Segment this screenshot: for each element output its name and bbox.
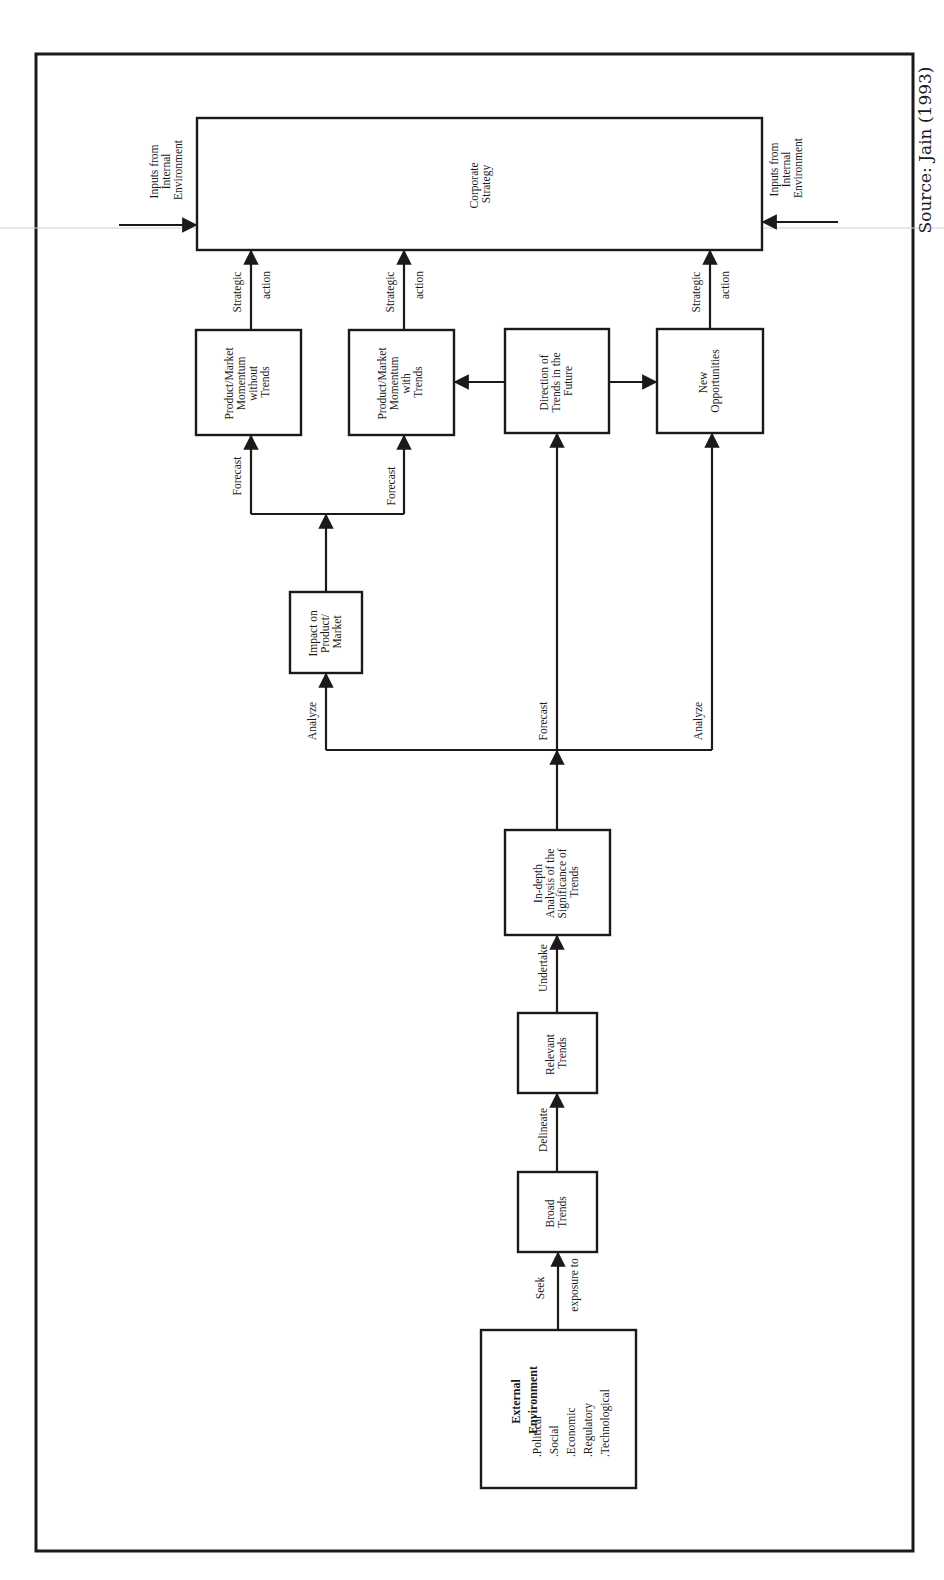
edge-delineate: Delineate (537, 1094, 557, 1172)
node-broad-trends: Broad Trends (518, 1172, 597, 1252)
svg-text:Strategic: Strategic (231, 272, 244, 313)
node-external-environment: External Environment .Political .Social … (481, 1330, 636, 1488)
edge-analyze-split: Analyze Forecast Analyze (306, 434, 712, 830)
svg-text:Broad Trends: Broad Trends (544, 1196, 568, 1228)
input-internal-right: Inputs from Internal Environment (763, 137, 838, 222)
outer-frame (36, 54, 913, 1551)
node-relevant-trends: Relevant Trends (518, 1013, 597, 1093)
svg-text:action: action (260, 271, 272, 299)
trend-analysis-diagram: Source: Jain (1993) Corporate Strategy I… (0, 0, 944, 1580)
svg-text:Forecast: Forecast (385, 466, 397, 506)
svg-text:action: action (719, 271, 731, 299)
svg-text:Strategic: Strategic (690, 272, 703, 313)
svg-text:Relevant Trends: Relevant Trends (544, 1031, 568, 1075)
node-corporate-strategy: Corporate Strategy (197, 118, 762, 250)
edge-strategic-action-2: Strategic action (384, 251, 425, 330)
node-in-depth-analysis: In-depth Analysis of the Significance of… (505, 830, 610, 935)
svg-text:Inputs from Internal: Inputs from Internal Environment (768, 137, 804, 198)
svg-text:Inputs from Internal: Inputs from Internal Environment (148, 139, 184, 200)
svg-text:Seek: Seek (534, 1277, 546, 1300)
edge-forecast-split: Forecast Forecast (231, 436, 404, 592)
edge-seek-exposure: Seek exposure to (534, 1253, 581, 1330)
input-internal-left: Inputs from Internal Environment (119, 139, 196, 225)
svg-text:Forecast: Forecast (537, 701, 549, 741)
svg-text:Corporate Strategy: Corporate Strategy (468, 160, 493, 209)
node-new-opportunities: New Opportunities (657, 329, 763, 433)
edge-strategic-action-3: Strategic action (690, 251, 731, 330)
svg-text:Forecast: Forecast (231, 456, 243, 496)
svg-text:Delineate: Delineate (537, 1108, 549, 1152)
svg-text:Analyze: Analyze (306, 702, 319, 740)
node-impact-on-product-market: Impact on Product/ Market (290, 592, 362, 673)
edge-undertake: Undertake (537, 936, 557, 1013)
svg-text:Analyze: Analyze (692, 702, 705, 740)
svg-text:Undertake: Undertake (537, 944, 549, 992)
edge-strategic-action-1: Strategic action (231, 251, 272, 330)
node-pm-momentum-with-trends: Product/Market Momentum with Trends (349, 330, 454, 435)
svg-text:Strategic: Strategic (384, 272, 397, 313)
source-label: Source: Jain (1993) (915, 67, 935, 234)
svg-text:action: action (413, 271, 425, 299)
svg-text:exposure to: exposure to (568, 1258, 581, 1312)
node-direction-of-trends: Direction of Trends in the Future (505, 329, 609, 433)
node-pm-momentum-without-trends: Product/Market Momentum without Trends (196, 330, 301, 435)
